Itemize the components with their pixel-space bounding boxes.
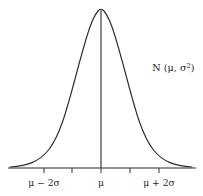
normal-distribution-figure: μ − 2σ μ μ + 2σ N (μ, σ2) xyxy=(0,0,203,196)
distribution-label-n: N ( xyxy=(152,62,167,73)
tick-label-mu: μ xyxy=(98,177,104,188)
bell-curve-plot: μ − 2σ μ μ + 2σ N (μ, σ2) xyxy=(0,0,203,196)
tick-label-mu-plus-2sigma: μ + 2σ xyxy=(143,177,175,188)
tick-label-mu-minus-2sigma: μ − 2σ xyxy=(28,177,60,188)
distribution-label: N (μ, σ2) xyxy=(131,62,203,73)
distribution-label-close: ) xyxy=(191,62,195,73)
